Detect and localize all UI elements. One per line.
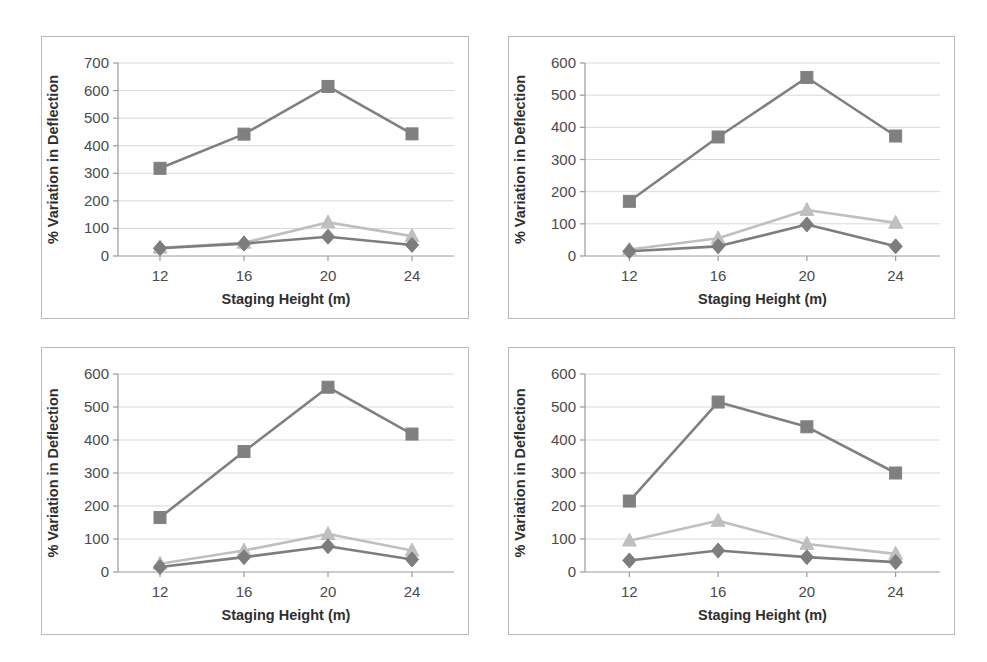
svg-text:20: 20 bbox=[320, 583, 337, 600]
svg-text:0: 0 bbox=[568, 563, 576, 580]
svg-text:600: 600 bbox=[84, 365, 109, 382]
svg-text:20: 20 bbox=[799, 267, 816, 284]
svg-text:% Variation in Deflection: % Variation in Deflection bbox=[45, 388, 61, 557]
svg-text:200: 200 bbox=[84, 497, 109, 514]
svg-text:200: 200 bbox=[551, 497, 576, 514]
svg-text:12: 12 bbox=[621, 267, 638, 284]
svg-text:24: 24 bbox=[887, 267, 904, 284]
svg-text:500: 500 bbox=[84, 109, 109, 126]
svg-text:16: 16 bbox=[710, 583, 727, 600]
chart-canvas-0: 010020030040050060070012162024Staging He… bbox=[42, 37, 468, 318]
svg-text:24: 24 bbox=[404, 267, 421, 284]
svg-text:Staging Height (m): Staging Height (m) bbox=[698, 607, 827, 623]
svg-text:100: 100 bbox=[84, 219, 109, 236]
svg-text:% Variation in Deflection: % Variation in Deflection bbox=[512, 75, 528, 244]
svg-text:400: 400 bbox=[551, 431, 576, 448]
svg-text:200: 200 bbox=[84, 192, 109, 209]
svg-text:0: 0 bbox=[101, 247, 109, 264]
svg-text:100: 100 bbox=[551, 215, 576, 232]
chart-panel-bottom-right: 010020030040050060012162024Staging Heigh… bbox=[508, 347, 955, 635]
svg-text:600: 600 bbox=[84, 82, 109, 99]
svg-text:% Variation in Deflection: % Variation in Deflection bbox=[512, 388, 528, 557]
svg-text:0: 0 bbox=[101, 563, 109, 580]
svg-text:300: 300 bbox=[551, 151, 576, 168]
svg-text:400: 400 bbox=[551, 118, 576, 135]
svg-text:100: 100 bbox=[551, 530, 576, 547]
svg-text:% Variation in Deflection: % Variation in Deflection bbox=[45, 75, 61, 244]
chart-canvas-3: 010020030040050060012162024Staging Heigh… bbox=[509, 348, 954, 634]
svg-text:Staging Height (m): Staging Height (m) bbox=[222, 607, 351, 623]
svg-text:0: 0 bbox=[568, 247, 576, 264]
chart-panel-bottom-left: 010020030040050060012162024Staging Heigh… bbox=[41, 347, 469, 635]
svg-text:700: 700 bbox=[84, 54, 109, 71]
svg-text:500: 500 bbox=[551, 398, 576, 415]
svg-text:300: 300 bbox=[84, 464, 109, 481]
chart-canvas-2: 010020030040050060012162024Staging Heigh… bbox=[42, 348, 468, 634]
chart-panel-top-right: 010020030040050060012162024Staging Heigh… bbox=[508, 36, 955, 319]
svg-text:500: 500 bbox=[84, 398, 109, 415]
svg-text:500: 500 bbox=[551, 86, 576, 103]
figure-sheet: 010020030040050060070012162024Staging He… bbox=[0, 0, 987, 662]
svg-text:Staging Height (m): Staging Height (m) bbox=[222, 291, 351, 307]
svg-text:24: 24 bbox=[404, 583, 421, 600]
svg-text:300: 300 bbox=[84, 164, 109, 181]
svg-text:12: 12 bbox=[152, 583, 169, 600]
svg-text:200: 200 bbox=[551, 183, 576, 200]
svg-text:24: 24 bbox=[887, 583, 904, 600]
svg-text:Staging Height (m): Staging Height (m) bbox=[698, 291, 827, 307]
svg-text:20: 20 bbox=[320, 267, 337, 284]
svg-text:12: 12 bbox=[621, 583, 638, 600]
svg-text:12: 12 bbox=[152, 267, 169, 284]
svg-text:20: 20 bbox=[799, 583, 816, 600]
svg-text:600: 600 bbox=[551, 54, 576, 71]
svg-text:600: 600 bbox=[551, 365, 576, 382]
svg-text:16: 16 bbox=[710, 267, 727, 284]
svg-text:100: 100 bbox=[84, 530, 109, 547]
svg-text:16: 16 bbox=[236, 583, 253, 600]
chart-canvas-1: 010020030040050060012162024Staging Heigh… bbox=[509, 37, 954, 318]
chart-panel-top-left: 010020030040050060070012162024Staging He… bbox=[41, 36, 469, 319]
svg-text:16: 16 bbox=[236, 267, 253, 284]
svg-text:400: 400 bbox=[84, 431, 109, 448]
svg-text:300: 300 bbox=[551, 464, 576, 481]
svg-text:400: 400 bbox=[84, 137, 109, 154]
